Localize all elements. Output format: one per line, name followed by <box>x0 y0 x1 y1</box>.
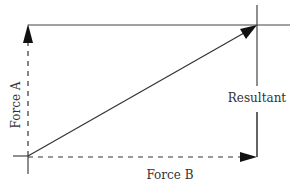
force-b-arrow <box>28 152 257 162</box>
force-b-label: Force B <box>146 168 193 182</box>
force-diagram: Force A Force B Resultant <box>0 0 302 194</box>
resultant-label: Resultant <box>228 91 287 105</box>
force-a-label: Force A <box>9 81 23 128</box>
force-a-arrow <box>23 24 33 156</box>
resultant-arrowhead-icon <box>240 25 257 39</box>
resultant-arrow <box>28 25 257 156</box>
force-b-arrowhead-icon <box>240 152 257 162</box>
force-a-arrowhead-icon <box>23 24 33 43</box>
